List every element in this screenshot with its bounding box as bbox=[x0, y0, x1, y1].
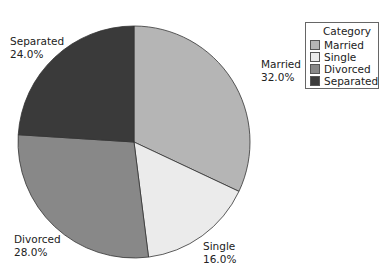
label-separated-pct: 24.0% bbox=[10, 48, 64, 61]
legend-item-married: Married bbox=[310, 39, 364, 51]
legend-item-divorced: Divorced bbox=[310, 63, 371, 75]
label-married-pct: 32.0% bbox=[261, 71, 301, 84]
legend-swatch-single bbox=[310, 52, 320, 62]
label-married-name: Married bbox=[261, 58, 301, 71]
label-married: Married 32.0% bbox=[261, 58, 301, 84]
label-separated: Separated 24.0% bbox=[10, 35, 64, 61]
legend-label-married: Married bbox=[324, 39, 364, 51]
legend-label-divorced: Divorced bbox=[324, 63, 371, 75]
label-divorced-name: Divorced bbox=[14, 233, 61, 246]
legend-swatch-married bbox=[310, 40, 320, 50]
legend-swatch-divorced bbox=[310, 64, 320, 74]
label-single-pct: 16.0% bbox=[203, 253, 236, 266]
legend-swatch-separated bbox=[310, 76, 320, 86]
legend-item-separated: Separated bbox=[310, 75, 378, 87]
label-single-name: Single bbox=[203, 240, 236, 253]
legend-label-single: Single bbox=[324, 51, 356, 63]
label-divorced-pct: 28.0% bbox=[14, 246, 61, 259]
label-single: Single 16.0% bbox=[203, 240, 236, 266]
label-separated-name: Separated bbox=[10, 35, 64, 48]
legend-title: Category bbox=[306, 25, 378, 37]
legend-item-single: Single bbox=[310, 51, 356, 63]
label-divorced: Divorced 28.0% bbox=[14, 233, 61, 259]
legend-label-separated: Separated bbox=[324, 75, 378, 87]
legend: Category Married Single Divorced Separat… bbox=[305, 22, 379, 89]
